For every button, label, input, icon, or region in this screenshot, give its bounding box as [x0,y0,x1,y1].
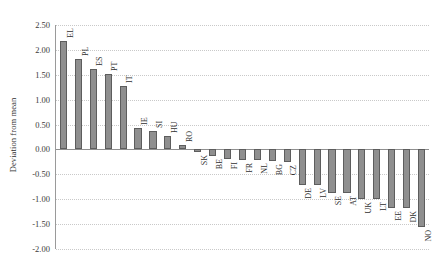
bar-group: IE [131,25,146,249]
bar[interactable] [284,149,291,161]
bar-group: UK [354,25,369,249]
plot-area: ELPLESPTITIESIHUROSKBEFIFRNLBGCZDELVSEAT… [56,25,429,249]
bar-group: FI [220,25,235,249]
chart-root: Deviation from mean 2.502.001.501.000.50… [0,0,441,270]
bar-group: SK [190,25,205,249]
bar-group: RO [175,25,190,249]
bar[interactable] [149,131,156,149]
y-tick-label: -0.50 [6,169,50,179]
bar-group: DE [295,25,310,249]
bar[interactable] [179,145,186,149]
bar[interactable] [120,86,127,149]
bar[interactable] [403,149,410,208]
bar-group: PL [71,25,86,249]
bar[interactable] [343,149,350,193]
gridline [56,249,429,250]
bar-group: BE [205,25,220,249]
bar[interactable] [418,149,425,226]
bar-group: BG [265,25,280,249]
bar-group: HU [160,25,175,249]
bar-group: FR [235,25,250,249]
bar-group: AT [339,25,354,249]
bar[interactable] [239,149,246,160]
y-tick-label: -2.00 [6,244,50,254]
bar[interactable] [105,74,112,149]
y-tick-label: -1.00 [6,194,50,204]
bar[interactable] [254,149,261,160]
bar[interactable] [75,59,82,150]
y-tick-label: 2.50 [6,20,50,30]
y-axis-tick-labels: 2.502.001.501.000.500.00-0.50-1.00-1.50-… [0,25,52,249]
bar[interactable] [299,149,306,185]
bar[interactable] [373,149,380,199]
bar-group: ES [86,25,101,249]
bar-group: IT [116,25,131,249]
bar-group: EE [384,25,399,249]
bar-label: NO [425,230,433,242]
bar-group: SE [325,25,340,249]
y-tick-label: 2.00 [6,45,50,55]
bar-group: CZ [280,25,295,249]
bar[interactable] [328,149,335,193]
y-tick-label: 0.00 [6,144,50,154]
bar-group: DK [399,25,414,249]
bar-group: LV [310,25,325,249]
bar-group: LT [369,25,384,249]
y-tick-label: -1.50 [6,219,50,229]
bar-group: NO [414,25,429,249]
bar[interactable] [314,149,321,185]
bar-group: NL [250,25,265,249]
bar[interactable] [358,149,365,199]
bar-group: SI [146,25,161,249]
y-tick-label: 0.50 [6,120,50,130]
bar[interactable] [209,149,216,155]
bar[interactable] [388,149,395,208]
y-tick-label: 1.00 [6,95,50,105]
bar-group: EL [56,25,71,249]
bar[interactable] [224,149,231,159]
bar[interactable] [134,128,141,150]
bar[interactable] [164,136,171,149]
bar[interactable] [269,149,276,160]
bar[interactable] [194,149,201,151]
bar[interactable] [60,41,67,149]
y-tick-label: 1.50 [6,70,50,80]
bar-series: ELPLESPTITIESIHUROSKBEFIFRNLBGCZDELVSEAT… [56,25,429,249]
bar-group: PT [101,25,116,249]
bar[interactable] [90,69,97,149]
